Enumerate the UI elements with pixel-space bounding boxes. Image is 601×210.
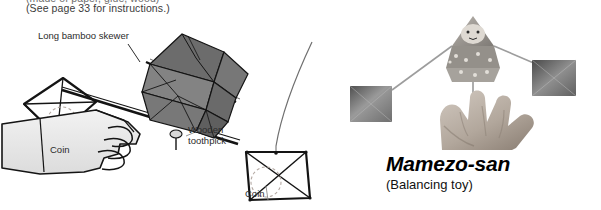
page-subtitle: (Balancing toy) bbox=[386, 177, 586, 193]
diagram-illustration bbox=[0, 18, 340, 210]
photo-origami-doll bbox=[446, 16, 500, 94]
label-long-bamboo-skewer: Long bamboo skewer bbox=[38, 30, 129, 41]
line-art-diagram: Long bamboo skewer Wooden toothpick Coin… bbox=[0, 18, 340, 210]
page-root: (made of paper, glue, wood) (See page 33… bbox=[0, 0, 601, 210]
page-title: Mamezo-san bbox=[386, 152, 586, 176]
photo-hand bbox=[440, 91, 534, 151]
label-wooden-toothpick: Wooden toothpick bbox=[188, 124, 248, 146]
photo-flag-left bbox=[350, 86, 392, 122]
hand-illustration bbox=[2, 110, 140, 174]
leader-coin-right bbox=[266, 186, 268, 200]
title-block: Mamezo-san (Balancing toy) bbox=[386, 152, 586, 193]
origami-figure bbox=[142, 34, 248, 138]
leader-skewer bbox=[128, 44, 140, 62]
photo-rod-left bbox=[392, 46, 452, 90]
photo-flag-right bbox=[532, 60, 576, 96]
motion-arc bbox=[276, 42, 312, 146]
label-coin-left: Coin bbox=[50, 144, 70, 155]
instructions-note: (See page 33 for instructions.) bbox=[26, 2, 170, 14]
balancing-toy-photograph bbox=[344, 2, 599, 150]
label-coin-right: Coin bbox=[245, 188, 265, 199]
